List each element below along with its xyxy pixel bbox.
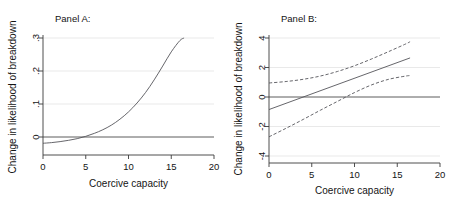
- panel-a-title: Panel A:: [55, 13, 90, 24]
- y-axis-title-a: Change in likelihood of breakdown: [7, 21, 18, 174]
- x-tick-label-a-5: 5: [83, 161, 88, 172]
- panel-b: 4 2 0 -2 -4 0 5 10 15 20 Coercive capaci…: [226, 0, 451, 198]
- y-tick-label-a-0: 0: [30, 134, 41, 139]
- panel-b-series-lower-confidence-bound: [269, 76, 410, 137]
- y-tick-label-b-neg4: -4: [255, 152, 266, 160]
- y-axis-title-b: Change in likelihood of breakdown: [233, 23, 244, 176]
- panel-a-series-predicted-change: [43, 38, 184, 143]
- panel-a-gridlines: [43, 38, 214, 104]
- x-tick-label-b-0: 0: [266, 169, 271, 180]
- x-tick-label-b-5: 5: [309, 169, 314, 180]
- panel-a-x-ticks: [43, 155, 214, 159]
- y-tick-label-b-0: 0: [255, 94, 266, 99]
- x-axis-title-b: Coercive capacity: [315, 185, 394, 196]
- y-tick-label-b-4: 4: [255, 35, 266, 40]
- x-tick-label-b-15: 15: [391, 169, 402, 180]
- panel-b-plot: 4 2 0 -2 -4 0 5 10 15 20 Coercive capaci…: [226, 0, 451, 198]
- x-tick-label-b-10: 10: [349, 169, 360, 180]
- panel-b-series-upper-confidence-bound: [269, 42, 410, 83]
- panel-b-series-predicted-change: [269, 58, 410, 110]
- figure-container: .3 .2 .1 0 0 5 10 15 20 Coercive capacit…: [0, 0, 451, 198]
- panel-a-y-ticks: [39, 38, 43, 137]
- x-tick-label-b-20: 20: [434, 169, 445, 180]
- y-tick-label-b-2: 2: [255, 65, 266, 70]
- panel-b-x-ticks: [269, 163, 440, 167]
- panel-b-title: Panel B:: [281, 13, 317, 24]
- x-tick-label-a-15: 15: [166, 161, 177, 172]
- y-tick-label-a-2: .2: [30, 67, 41, 75]
- panel-a: .3 .2 .1 0 0 5 10 15 20 Coercive capacit…: [0, 0, 226, 198]
- x-axis-title-a: Coercive capacity: [89, 178, 168, 189]
- y-tick-label-a-3: .3: [30, 34, 41, 42]
- x-tick-label-a-20: 20: [209, 161, 220, 172]
- y-tick-label-b-neg2: -2: [255, 122, 266, 130]
- y-tick-label-a-1: .1: [30, 100, 41, 108]
- x-tick-label-a-10: 10: [123, 161, 134, 172]
- x-tick-label-a-0: 0: [40, 161, 45, 172]
- panel-a-plot: .3 .2 .1 0 0 5 10 15 20 Coercive capacit…: [0, 0, 226, 198]
